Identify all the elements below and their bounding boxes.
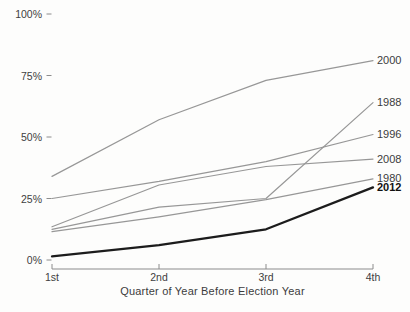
x-axis-title: Quarter of Year Before Election Year [52,285,373,297]
x-tick-label-3rd: 3rd [258,271,273,283]
series-line-1996 [52,135,373,199]
x-tick-label-1st: 1st [45,271,59,283]
series-label-2000: 2000 [377,54,401,66]
y-tick-label-50: 50% [21,131,42,143]
series-line-2012 [52,187,373,256]
x-tick-label-2nd: 2nd [150,271,168,283]
y-tick-label-100: 100% [15,8,42,20]
series-line-2008 [52,159,373,227]
series-line-1988 [52,103,373,230]
series-label-2012: 2012 [377,181,401,193]
line-chart-canvas: 0%25%50%75%100%1st2nd3rd4th2000198819962… [0,0,410,312]
y-tick-label-75: 75% [21,70,42,82]
series-label-1996: 1996 [377,128,401,140]
y-tick-label-25: 25% [21,193,42,205]
series-label-2008: 2008 [377,153,401,165]
series-line-2000 [52,61,373,177]
series-label-1988: 1988 [377,96,401,108]
election-quarter-line-chart: 0%25%50%75%100%1st2nd3rd4th2000198819962… [0,0,410,312]
y-tick-label-0: 0% [27,254,42,266]
x-tick-label-4th: 4th [366,271,381,283]
